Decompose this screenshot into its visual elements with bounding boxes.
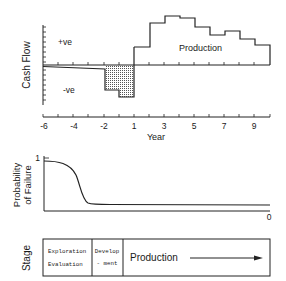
cash-flow-y-label: Cash Flow bbox=[21, 41, 32, 89]
stage-panel: Stage Exploration Evaluation Develop - m… bbox=[21, 239, 270, 276]
cash-flow-panel: Cash Flow +ve -ve Production -6 -4 -2 1 … bbox=[21, 16, 270, 142]
stage-evaluation-label: Evaluation bbox=[48, 261, 83, 268]
stage-y-label: Stage bbox=[21, 244, 32, 271]
svg-text:1: 1 bbox=[132, 121, 137, 131]
year-axis-label: Year bbox=[147, 132, 165, 142]
stage-development-label-2: - ment bbox=[97, 260, 118, 267]
year-tick-labels: -6 -4 -2 1 3 5 7 9 bbox=[40, 121, 256, 131]
svg-text:-4: -4 bbox=[70, 121, 78, 131]
negative-cash-flow-area bbox=[43, 65, 134, 97]
production-cash-flow-line bbox=[134, 16, 270, 65]
arrow-right-icon bbox=[254, 256, 263, 261]
probability-y-tick-1: 1 bbox=[35, 153, 40, 163]
svg-text:-2: -2 bbox=[100, 121, 108, 131]
svg-text:5: 5 bbox=[192, 121, 197, 131]
svg-text:3: 3 bbox=[162, 121, 167, 131]
svg-text:-6: -6 bbox=[40, 121, 48, 131]
stage-exploration-label: Exploration bbox=[48, 248, 86, 255]
production-label: Production bbox=[179, 43, 222, 53]
svg-text:9: 9 bbox=[252, 121, 257, 131]
probability-panel: 1 0 Probability of Failure bbox=[11, 153, 272, 222]
negative-label: -ve bbox=[63, 85, 75, 95]
stage-production-label: Production bbox=[130, 252, 178, 263]
probability-curve bbox=[44, 161, 270, 205]
probability-y-label-line2: of Failure bbox=[22, 165, 33, 205]
probability-y-label-line1: Probability bbox=[11, 163, 22, 208]
probability-x-tick-0: 0 bbox=[267, 212, 272, 222]
lifecycle-diagram: Cash Flow +ve -ve Production -6 -4 -2 1 … bbox=[0, 0, 286, 281]
svg-text:7: 7 bbox=[222, 121, 227, 131]
positive-label: +ve bbox=[58, 37, 72, 47]
stage-development-label-1: Develop bbox=[95, 248, 120, 255]
